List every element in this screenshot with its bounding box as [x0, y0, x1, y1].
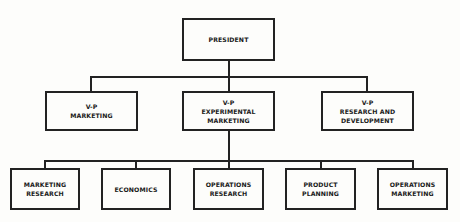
- connector-dept-bus: [44, 160, 414, 162]
- vp-research-development-box: V-P RESEARCH AND DEVELOPMENT: [321, 91, 414, 131]
- vp-marketing-dept: MARKETING: [70, 111, 112, 120]
- vp-rd-title: V-P: [362, 98, 374, 107]
- marketing-research-box: MARKETING RESEARCH: [10, 168, 80, 210]
- connector-dept-5: [412, 160, 414, 168]
- product-planning-line-1: PRODUCT: [303, 180, 337, 189]
- connector-vp-bus: [90, 76, 368, 78]
- vp-rd-dept-2: DEVELOPMENT: [341, 116, 394, 125]
- president-label: PRESIDENT: [209, 35, 249, 44]
- operations-research-line-1: OPERATIONS: [206, 180, 252, 189]
- operations-marketing-line-1: OPERATIONS: [390, 180, 436, 189]
- economics-box: ECONOMICS: [101, 168, 171, 210]
- connector-vp-rd: [366, 76, 368, 91]
- org-chart: PRESIDENT V-P MARKETING V-P EXPERIMENTAL…: [0, 0, 460, 222]
- operations-research-line-2: RESEARCH: [210, 189, 248, 198]
- connector-vp-exp-down: [228, 130, 230, 168]
- vp-exp-title: V-P: [223, 98, 235, 107]
- connector-dept-2: [135, 160, 137, 168]
- operations-marketing-box: OPERATIONS MARKETING: [377, 168, 448, 210]
- marketing-research-line-1: MARKETING: [24, 180, 66, 189]
- connector-dept-1: [44, 160, 46, 168]
- vp-rd-dept-1: RESEARCH AND: [340, 107, 395, 116]
- economics-line-1: ECONOMICS: [115, 185, 158, 194]
- vp-marketing-box: V-P MARKETING: [45, 91, 138, 131]
- vp-experimental-marketing-box: V-P EXPERIMENTAL MARKETING: [182, 91, 275, 131]
- vp-marketing-title: V-P: [86, 102, 98, 111]
- vp-exp-dept-2: MARKETING: [207, 116, 249, 125]
- connector-dept-4: [320, 160, 322, 168]
- product-planning-box: PRODUCT PLANNING: [285, 168, 356, 210]
- operations-research-box: OPERATIONS RESEARCH: [193, 168, 264, 210]
- operations-marketing-line-2: MARKETING: [391, 189, 433, 198]
- marketing-research-line-2: RESEARCH: [26, 189, 64, 198]
- connector-vp-marketing: [90, 76, 92, 91]
- vp-exp-dept-1: EXPERIMENTAL: [201, 107, 255, 116]
- president-box: PRESIDENT: [182, 18, 275, 61]
- product-planning-line-2: PLANNING: [302, 189, 339, 198]
